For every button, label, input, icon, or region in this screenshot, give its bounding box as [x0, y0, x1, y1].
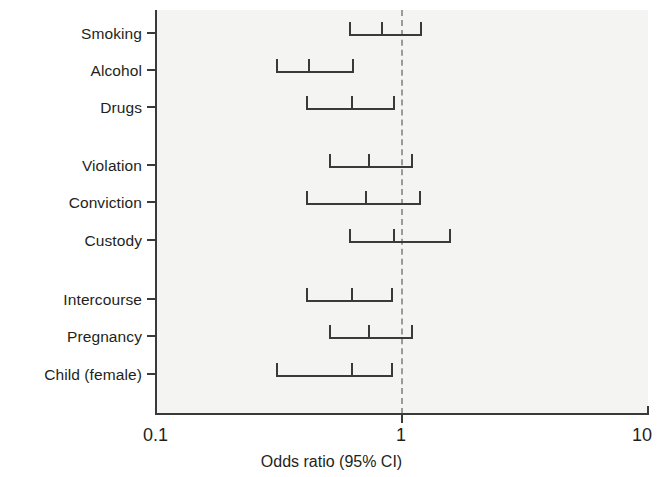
ci-upper-cap — [352, 59, 354, 73]
confidence-interval-bar — [306, 96, 395, 110]
category-label-conviction: Conviction — [2, 195, 142, 211]
ci-lower-cap — [306, 191, 308, 205]
odds-ratio-point-estimate — [308, 59, 310, 73]
category-label-pregnancy: Pregnancy — [2, 329, 142, 345]
confidence-interval-bar — [276, 363, 392, 377]
confidence-interval-bar — [276, 59, 354, 73]
confidence-interval-bar — [349, 22, 422, 36]
odds-ratio-point-estimate — [351, 363, 353, 377]
y-axis-tick — [147, 201, 157, 203]
odds-ratio-point-estimate — [393, 229, 395, 243]
ci-upper-cap — [411, 154, 413, 168]
x-tick-label-min: 0.1 — [143, 426, 168, 444]
ci-lower-cap — [276, 59, 278, 73]
ci-whisker-line — [276, 71, 354, 73]
ci-whisker-line — [329, 337, 412, 339]
ci-lower-cap — [276, 363, 278, 377]
x-axis-tick-1 — [401, 413, 403, 423]
y-axis-tick — [147, 335, 157, 337]
confidence-interval-bar — [349, 229, 452, 243]
y-axis-tick — [147, 239, 157, 241]
ci-upper-cap — [391, 288, 393, 302]
category-label-alcohol: Alcohol — [2, 63, 142, 79]
odds-ratio-point-estimate — [351, 288, 353, 302]
confidence-interval-bar — [329, 325, 412, 339]
ci-upper-cap — [420, 22, 422, 36]
odds-ratio-point-estimate — [368, 154, 370, 168]
x-axis-right-cap — [647, 406, 649, 415]
y-axis-tick — [147, 32, 157, 34]
odds-ratio-point-estimate — [351, 96, 353, 110]
ci-upper-cap — [391, 363, 393, 377]
category-label-intercourse: Intercourse — [2, 292, 142, 308]
ci-lower-cap — [306, 288, 308, 302]
ci-upper-cap — [449, 229, 451, 243]
confidence-interval-bar — [329, 154, 412, 168]
category-label-child-female: Child (female) — [2, 367, 142, 383]
odds-ratio-point-estimate — [365, 191, 367, 205]
category-label-violation: Violation — [2, 158, 142, 174]
ci-upper-cap — [411, 325, 413, 339]
odds-ratio-point-estimate — [368, 325, 370, 339]
ci-whisker-line — [349, 34, 422, 36]
x-tick-label-max: 10 — [632, 426, 652, 444]
ci-whisker-line — [306, 203, 421, 205]
confidence-interval-bar — [306, 288, 393, 302]
ci-lower-cap — [329, 154, 331, 168]
category-label-custody: Custody — [2, 233, 142, 249]
x-tick-label-mid: 1 — [396, 426, 406, 444]
ci-lower-cap — [329, 325, 331, 339]
forest-plot-figure: SmokingAlcoholDrugsViolationConvictionCu… — [0, 0, 663, 477]
y-axis-tick — [147, 373, 157, 375]
x-axis-left-cap — [155, 406, 157, 415]
ci-whisker-line — [306, 300, 393, 302]
category-label-drugs: Drugs — [2, 100, 142, 116]
null-reference-line — [401, 10, 403, 414]
y-axis-tick — [147, 164, 157, 166]
x-axis-title: Odds ratio (95% CI) — [0, 454, 663, 470]
odds-ratio-point-estimate — [381, 22, 383, 36]
ci-upper-cap — [419, 191, 421, 205]
ci-whisker-line — [329, 166, 412, 168]
ci-whisker-line — [276, 375, 392, 377]
ci-upper-cap — [393, 96, 395, 110]
y-axis-tick — [147, 298, 157, 300]
y-axis-tick — [147, 69, 157, 71]
ci-lower-cap — [349, 229, 351, 243]
y-axis-tick — [147, 106, 157, 108]
category-label-smoking: Smoking — [2, 26, 142, 42]
ci-lower-cap — [349, 22, 351, 36]
ci-lower-cap — [306, 96, 308, 110]
ci-whisker-line — [349, 241, 452, 243]
confidence-interval-bar — [306, 191, 421, 205]
